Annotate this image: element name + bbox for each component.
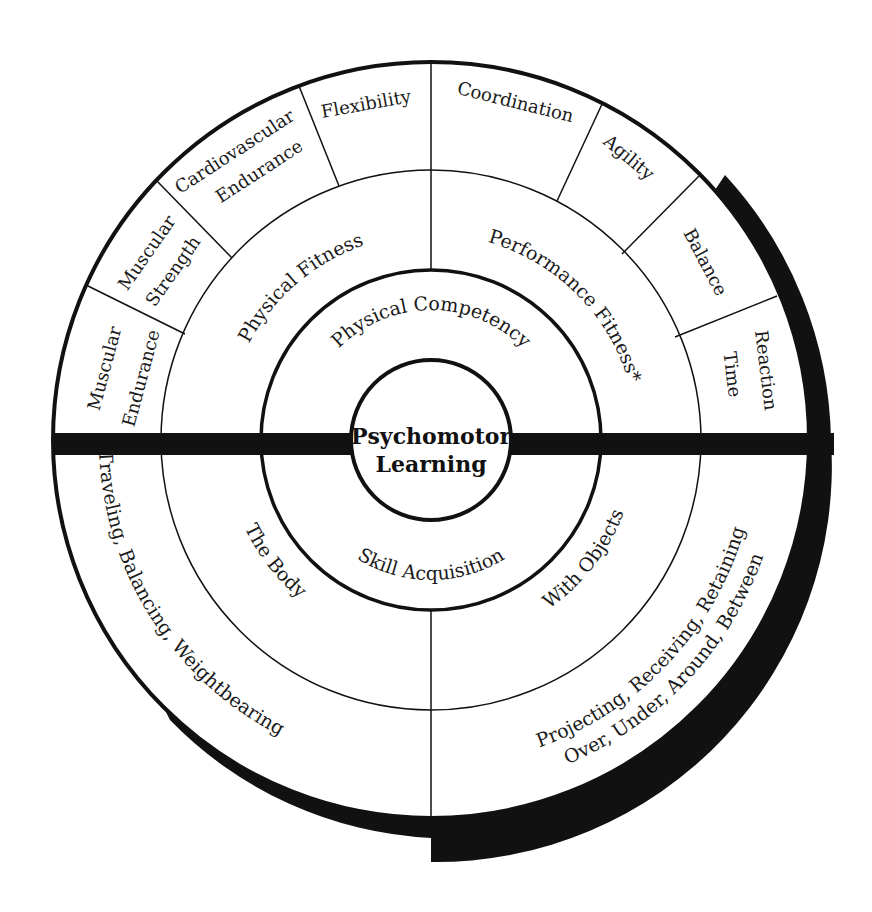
center-label-line1: Psychomotor xyxy=(351,423,512,449)
center-label-line2: Learning xyxy=(375,451,486,477)
psychomotor-learning-diagram: Psychomotor Learning Physical Competency… xyxy=(0,0,872,912)
